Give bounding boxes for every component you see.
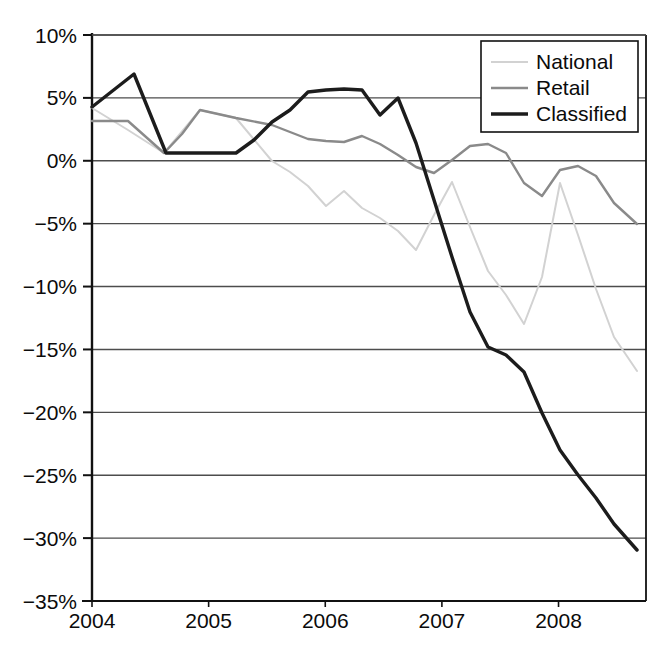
series-line-classified — [92, 74, 637, 550]
legend[interactable]: NationalRetailClassified — [481, 41, 638, 132]
y-axis-tick-label: −10% — [23, 275, 77, 298]
x-axis-tick-label: 2004 — [69, 609, 116, 632]
y-axis-tick-label: −25% — [23, 464, 77, 487]
y-axis-tick-label: −15% — [23, 338, 77, 361]
legend-label-classified[interactable]: Classified — [536, 102, 627, 125]
data-series — [92, 74, 637, 550]
line-chart: 10%5%0%−5%−10%−15%−20%−25%−30%−35% 20042… — [0, 0, 668, 653]
x-axis-tick-label: 2007 — [419, 609, 466, 632]
series-line-national — [92, 108, 637, 371]
x-axis-tick-label: 2008 — [535, 609, 582, 632]
y-axis-tick-label: −30% — [23, 527, 77, 550]
y-axis-tick-label: −20% — [23, 401, 77, 424]
x-axis-tick-label: 2006 — [302, 609, 349, 632]
chart-container: 10%5%0%−5%−10%−15%−20%−25%−30%−35% 20042… — [0, 0, 668, 653]
x-axis-tick-label: 2005 — [185, 609, 232, 632]
y-axis-tick-label: 5% — [47, 86, 77, 109]
x-axis-tick-labels: 20042005200620072008 — [69, 601, 582, 632]
y-axis-tick-label: 0% — [47, 149, 77, 172]
legend-label-retail[interactable]: Retail — [536, 76, 590, 99]
y-axis-tickmarks — [83, 35, 92, 601]
legend-label-national[interactable]: National — [536, 50, 613, 73]
y-axis-tick-label: 10% — [35, 24, 77, 47]
y-axis-tick-labels: 10%5%0%−5%−10%−15%−20%−25%−30%−35% — [23, 24, 77, 613]
y-axis-tick-label: −5% — [34, 212, 77, 235]
